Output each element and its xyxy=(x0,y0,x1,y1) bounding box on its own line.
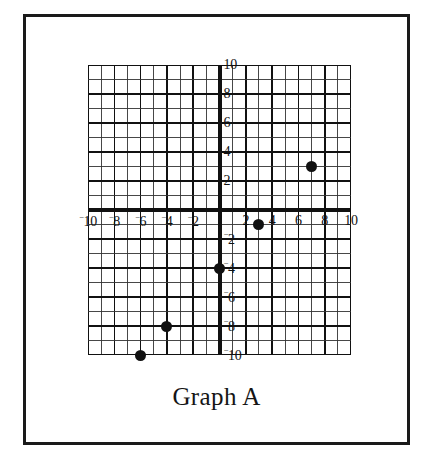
data-point xyxy=(306,161,317,172)
figure-frame: ⁻10⁻8⁻6⁻4⁻2246810 108642⁻2⁻4⁻6⁻8⁻10 Grap… xyxy=(23,14,410,445)
x-axis-tick-label: 4 xyxy=(269,214,276,228)
x-axis-tick-label: 8 xyxy=(321,214,328,228)
y-axis-tick-label: ⁻6 xyxy=(224,289,235,304)
graph-caption: Graph A xyxy=(26,383,407,411)
y-axis-tick-label: ⁻8 xyxy=(224,318,235,333)
coordinate-plane: ⁻10⁻8⁻6⁻4⁻2246810 108642⁻2⁻4⁻6⁻8⁻10 xyxy=(88,65,351,355)
x-axis-tick-label: 6 xyxy=(295,214,302,228)
grid-lines xyxy=(88,65,351,355)
x-axis-tick-label: ⁻8 xyxy=(109,214,120,229)
x-axis-tick-label: 10 xyxy=(344,214,357,228)
y-axis-tick-label: 2 xyxy=(224,174,231,188)
y-axis-tick-label: ⁻10 xyxy=(224,347,242,362)
x-axis-tick-label: ⁻2 xyxy=(188,214,199,229)
data-point xyxy=(135,350,146,361)
x-axis-tick-label: 2 xyxy=(242,214,249,228)
x-axis-tick-label: ⁻4 xyxy=(161,214,172,229)
y-axis-tick-label: 6 xyxy=(224,116,231,130)
x-axis-tick-label: ⁻10 xyxy=(79,214,97,229)
y-axis-tick-label: ⁻4 xyxy=(224,260,235,275)
y-axis-tick-label: ⁻2 xyxy=(224,231,235,246)
y-axis-tick-label: 8 xyxy=(224,87,231,101)
y-axis-tick-label: 4 xyxy=(224,145,231,159)
y-axis-tick-label: 10 xyxy=(224,58,237,72)
x-axis-tick-label: ⁻6 xyxy=(135,214,146,229)
data-point xyxy=(161,321,172,332)
